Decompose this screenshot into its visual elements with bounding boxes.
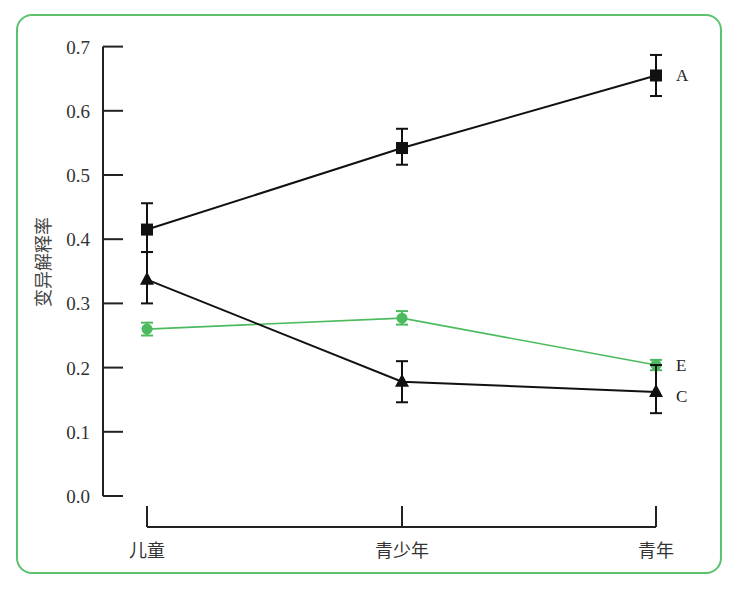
square-marker [396,142,408,154]
triangle-marker [140,272,154,285]
series-layer: AEC [140,55,689,413]
y-axis: 0.00.10.20.30.40.50.60.7 [66,37,123,507]
y-tick-label: 0.6 [66,101,90,122]
y-tick-label: 0.1 [66,422,90,443]
line-chart: 0.00.10.20.30.40.50.60.7 儿童青少年青年 AEC 变异解… [0,0,737,598]
y-tick-label: 0.0 [66,486,90,507]
x-tick-label: 儿童 [129,540,165,561]
circle-marker [397,313,408,324]
series-A: A [141,55,689,252]
y-tick-label: 0.7 [66,37,90,58]
y-tick-label: 0.2 [66,358,90,379]
circle-marker [142,324,153,335]
x-tick-label: 青年 [638,540,674,561]
y-tick-label: 0.3 [66,293,90,314]
triangle-marker [649,384,663,397]
x-axis: 儿童青少年青年 [129,506,674,561]
series-label-E: E [676,356,686,375]
series-E: E [141,311,686,375]
series-C: C [140,252,687,413]
x-tick-label: 青少年 [375,540,429,561]
series-label-A: A [676,66,689,85]
y-tick-label: 0.5 [66,165,90,186]
square-marker [141,224,153,236]
square-marker [650,69,662,81]
series-label-C: C [676,387,687,406]
y-tick-label: 0.4 [66,229,90,250]
y-axis-title: 变异解释率 [33,217,54,307]
